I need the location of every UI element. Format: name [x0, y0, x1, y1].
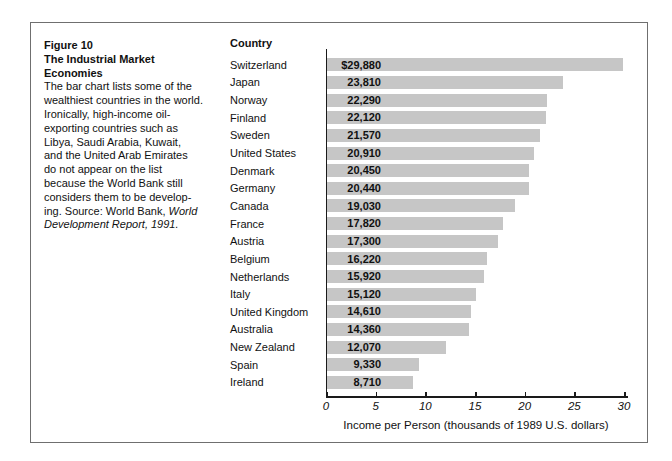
- y-axis-line: [326, 49, 328, 398]
- country-label: Netherlands: [230, 271, 326, 283]
- bar-zone: 20,440: [326, 179, 631, 197]
- caption-line: wealthiest countries in the world.: [44, 94, 234, 108]
- table-row: Ireland8,710: [230, 374, 631, 392]
- value-label: 15,920: [329, 270, 381, 283]
- country-label: United Kingdom: [230, 306, 326, 318]
- bar-zone: $29,880: [326, 56, 631, 74]
- table-row: New Zealand12,070: [230, 338, 631, 356]
- x-tick-mark: [574, 392, 576, 397]
- table-row: Switzerland$29,880: [230, 56, 631, 74]
- table-row: Australia14,360: [230, 321, 631, 339]
- x-tick-mark: [326, 392, 328, 397]
- value-label: 17,820: [329, 217, 381, 230]
- x-tick-label: 30: [618, 400, 631, 412]
- value-label: 20,450: [329, 164, 381, 177]
- caption-line: and the United Arab Emirates: [44, 149, 234, 163]
- figure-box: Figure 10The Industrial MarketEconomiesT…: [30, 22, 648, 443]
- x-axis-line: [326, 396, 628, 398]
- country-label: Germany: [230, 182, 326, 194]
- x-tick-mark: [624, 392, 626, 397]
- bar-zone: 17,820: [326, 215, 631, 233]
- table-row: Italy15,120: [230, 285, 631, 303]
- country-label: Ireland: [230, 376, 326, 388]
- caption-line: considers them to be develop-: [44, 191, 234, 205]
- caption-line: The bar chart lists some of the: [44, 80, 234, 94]
- bar-zone: 22,120: [326, 109, 631, 127]
- table-row: Austria17,300: [230, 232, 631, 250]
- value-label: 14,610: [329, 305, 381, 318]
- value-label: 8,710: [329, 376, 381, 389]
- country-label: Australia: [230, 323, 326, 335]
- bar-rows: Switzerland$29,880Japan23,810Norway22,29…: [230, 56, 631, 391]
- table-row: Sweden21,570: [230, 127, 631, 145]
- table-row: Norway22,290: [230, 91, 631, 109]
- bar-zone: 9,330: [326, 356, 631, 374]
- country-label: Italy: [230, 288, 326, 300]
- table-row: Spain9,330: [230, 356, 631, 374]
- x-tick-label: 0: [323, 400, 329, 412]
- x-tick-label: 20: [518, 400, 531, 412]
- x-axis-title: Income per Person (thousands of 1989 U.S…: [326, 419, 626, 431]
- value-label: 16,220: [329, 253, 381, 266]
- bar-zone: 8,710: [326, 374, 631, 392]
- country-label: Denmark: [230, 165, 326, 177]
- caption-line: Development Report, 1991.: [44, 218, 234, 232]
- table-row: Japan23,810: [230, 74, 631, 92]
- x-tick-label: 15: [469, 400, 482, 412]
- bar-zone: 21,570: [326, 127, 631, 145]
- caption-line: exporting countries such as: [44, 122, 234, 136]
- bar-zone: 17,300: [326, 232, 631, 250]
- x-tick-mark: [425, 392, 427, 397]
- country-label: Sweden: [230, 129, 326, 141]
- country-label: New Zealand: [230, 341, 326, 353]
- caption-line: Libya, Saudi Arabia, Kuwait,: [44, 136, 234, 150]
- caption-line: Ironically, high-income oil-: [44, 108, 234, 122]
- country-column-header: Country: [230, 37, 272, 49]
- value-label: 21,570: [329, 129, 381, 142]
- x-tick-mark: [525, 392, 527, 397]
- value-label: 17,300: [329, 235, 381, 248]
- country-label: Belgium: [230, 253, 326, 265]
- x-tick-mark: [475, 392, 477, 397]
- table-row: United Kingdom14,610: [230, 303, 631, 321]
- country-label: Spain: [230, 359, 326, 371]
- table-row: France17,820: [230, 215, 631, 233]
- bar-zone: 14,360: [326, 321, 631, 339]
- country-label: France: [230, 218, 326, 230]
- bar-zone: 12,070: [326, 338, 631, 356]
- table-row: Netherlands15,920: [230, 268, 631, 286]
- country-label: Norway: [230, 94, 326, 106]
- bar-zone: 19,030: [326, 197, 631, 215]
- value-label: 23,810: [329, 76, 381, 89]
- value-label: 12,070: [329, 341, 381, 354]
- x-axis-tick-labels: 051015202530: [326, 400, 624, 414]
- caption-line: The Industrial Market: [44, 53, 234, 67]
- caption-line: Economies: [44, 67, 234, 81]
- country-label: Japan: [230, 76, 326, 88]
- x-tick-label: 10: [419, 400, 432, 412]
- value-label: 22,120: [329, 111, 381, 124]
- value-label: 9,330: [329, 358, 381, 371]
- x-tick-label: 25: [568, 400, 581, 412]
- caption-line: because the World Bank still: [44, 177, 234, 191]
- country-label: Finland: [230, 112, 326, 124]
- caption-line: ing. Source: World Bank, World: [44, 205, 234, 219]
- bar-zone: 15,920: [326, 268, 631, 286]
- bar-zone: 16,220: [326, 250, 631, 268]
- figure-caption: Figure 10The Industrial MarketEconomiesT…: [44, 39, 234, 232]
- caption-line: Figure 10: [44, 39, 234, 53]
- bar-zone: 20,450: [326, 162, 631, 180]
- value-label: 14,360: [329, 323, 381, 336]
- value-label: 20,440: [329, 182, 381, 195]
- value-label: 22,290: [329, 94, 381, 107]
- table-row: Finland22,120: [230, 109, 631, 127]
- country-label: Canada: [230, 200, 326, 212]
- country-label: Austria: [230, 235, 326, 247]
- table-row: Canada19,030: [230, 197, 631, 215]
- table-row: Germany20,440: [230, 179, 631, 197]
- country-label: United States: [230, 147, 326, 159]
- value-label: 20,910: [329, 147, 381, 160]
- value-label: 15,120: [329, 288, 381, 301]
- x-tick-label: 5: [372, 400, 378, 412]
- country-label: Switzerland: [230, 59, 326, 71]
